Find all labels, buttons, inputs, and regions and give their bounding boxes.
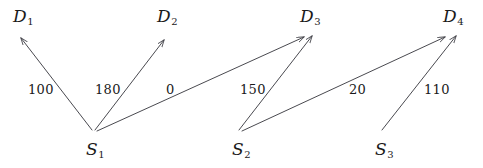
node-subscript-s2: 2: [244, 149, 251, 160]
node-label-d2: D2: [157, 8, 178, 27]
network-diagram: D1 D2 D3 D4 S1 S2 S3 100 180 0 150 20 11…: [0, 0, 483, 168]
node-label-s2: S2: [232, 141, 251, 160]
edge-cost-s1-d2: 180: [95, 83, 121, 96]
node-subscript-d2: 2: [171, 16, 178, 27]
edge-cost-s3-d4: 110: [424, 83, 450, 96]
node-letter-d4: D: [443, 6, 457, 26]
edge-cost-s2-d3: 150: [240, 83, 266, 96]
node-subscript-s1: 1: [98, 149, 105, 160]
edge-cost-s1-d3: 0: [166, 83, 175, 96]
node-letter-s2: S: [232, 139, 244, 159]
node-letter-d2: D: [157, 6, 171, 26]
node-letter-s1: S: [86, 139, 98, 159]
node-label-s1: S1: [86, 141, 105, 160]
node-letter-d3: D: [300, 6, 314, 26]
node-subscript-d3: 3: [314, 16, 321, 27]
node-letter-d1: D: [13, 6, 27, 26]
node-subscript-d4: 4: [457, 16, 464, 27]
node-label-d4: D4: [443, 8, 464, 27]
node-label-d3: D3: [300, 8, 321, 27]
edge-cost-s2-d4: 20: [349, 83, 366, 96]
node-subscript-s3: 3: [387, 149, 394, 160]
node-label-d1: D1: [13, 8, 34, 27]
node-subscript-d1: 1: [27, 16, 34, 27]
edge-cost-s1-d1: 100: [28, 83, 54, 96]
node-letter-s3: S: [375, 139, 387, 159]
node-label-s3: S3: [375, 141, 394, 160]
